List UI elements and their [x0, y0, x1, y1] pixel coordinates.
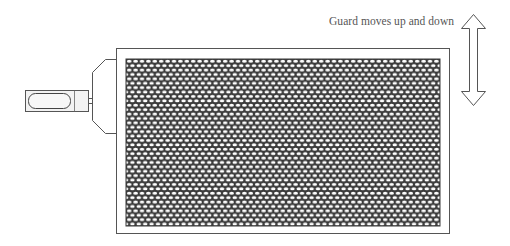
- handle-connector: [89, 99, 93, 104]
- motion-caption: Guard moves up and down: [329, 15, 454, 27]
- guard-diagram: [0, 0, 510, 246]
- handle[interactable]: [26, 91, 89, 112]
- up-down-arrow-icon: [462, 15, 486, 106]
- mounting-bracket: [93, 60, 117, 134]
- mesh-panel: [126, 59, 440, 226]
- handle-grip[interactable]: [29, 94, 71, 109]
